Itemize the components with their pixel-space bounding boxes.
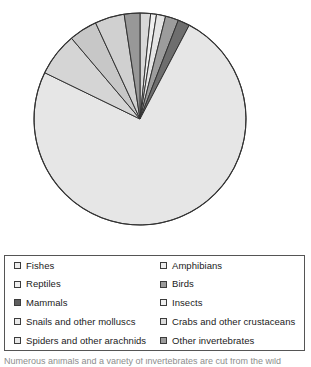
legend-swatch-icon	[160, 318, 167, 325]
legend-swatch-icon	[14, 337, 21, 344]
legend-item-amphibians[interactable]: Amphibians	[151, 261, 304, 271]
legend-item-reptiles[interactable]: Reptiles	[5, 279, 151, 289]
legend-swatch-icon	[14, 262, 21, 269]
legend-item-crabs-and-other-crustaceans[interactable]: Crabs and other crustaceans	[151, 317, 304, 327]
legend-item-spiders-and-other-arachnids[interactable]: Spiders and other arachnids	[5, 336, 151, 346]
legend-swatch-icon	[160, 262, 167, 269]
legend-swatch-icon	[14, 281, 21, 288]
legend-item-label: Mammals	[26, 298, 68, 308]
legend-item-label: Crabs and other crustaceans	[172, 317, 295, 327]
pie-chart	[0, 0, 311, 245]
legend-item-fishes[interactable]: Fishes	[5, 261, 151, 271]
legend-item-label: Fishes	[26, 261, 54, 271]
legend-item-other-invertebrates[interactable]: Other invertebrates	[151, 336, 304, 346]
legend-item-birds[interactable]: Birds	[151, 279, 304, 289]
legend-swatch-icon	[14, 318, 21, 325]
legend-item-snails-and-other-molluscs[interactable]: Snails and other molluscs	[5, 317, 151, 327]
legend-swatch-icon	[160, 281, 167, 288]
chart-legend: Fishes Amphibians Reptiles Birds Mammals…	[4, 255, 305, 351]
legend-grid: Fishes Amphibians Reptiles Birds Mammals…	[5, 256, 304, 350]
legend-item-label: Spiders and other arachnids	[26, 336, 146, 346]
legend-item-label: Amphibians	[172, 261, 222, 271]
legend-item-label: Other invertebrates	[172, 336, 254, 346]
legend-item-insects[interactable]: Insects	[151, 298, 304, 308]
legend-item-label: Snails and other molluscs	[26, 317, 136, 327]
legend-item-label: Reptiles	[26, 279, 61, 289]
legend-swatch-icon	[14, 299, 21, 306]
legend-item-label: Insects	[172, 298, 202, 308]
figure-caption: Numerous animals and a variety of invert…	[4, 358, 307, 367]
legend-item-label: Birds	[172, 279, 194, 289]
pie-chart-svg	[0, 0, 311, 245]
legend-swatch-icon	[160, 337, 167, 344]
legend-item-mammals[interactable]: Mammals	[5, 298, 151, 308]
figure-caption-text: Numerous animals and a variety of invert…	[4, 358, 307, 367]
legend-swatch-icon	[160, 299, 167, 306]
